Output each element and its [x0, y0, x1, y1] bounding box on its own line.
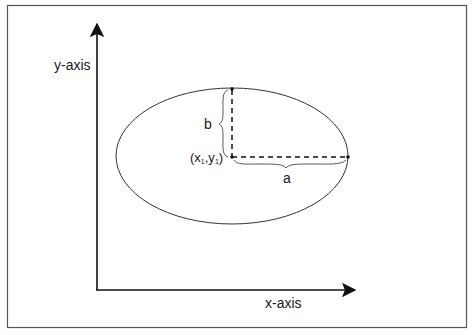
y-axis-label: y-axis	[54, 58, 91, 72]
diagram-frame	[8, 6, 467, 328]
top-vertex-point	[230, 87, 234, 91]
center-label-suffix: )	[219, 150, 223, 165]
right-vertex-point	[346, 155, 350, 159]
brace-b-icon	[219, 90, 228, 157]
center-coordinate-label: (x1,y1)	[190, 151, 223, 165]
center-label-prefix: (x	[190, 150, 201, 165]
brace-a-icon	[234, 160, 346, 168]
ellipse-diagram	[0, 0, 474, 335]
center-label-mid: ,y	[205, 150, 215, 165]
semi-major-label-a: a	[283, 171, 291, 185]
center-point	[230, 155, 234, 159]
semi-minor-label-b: b	[204, 117, 212, 131]
x-axis-label: x-axis	[265, 296, 302, 310]
